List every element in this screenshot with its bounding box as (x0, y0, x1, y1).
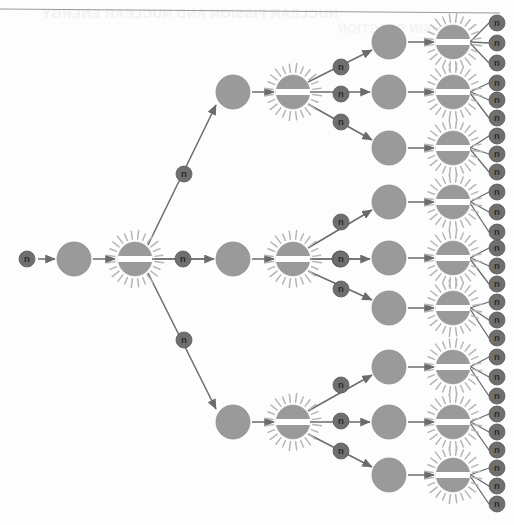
chain-reaction-diagram: nnnnnnnnnnnnnnnnnnnnnnnnnnnnnnnnnnnnnnnn… (0, 0, 514, 525)
nucleus-node (372, 75, 406, 109)
neutron-node: n (333, 214, 349, 230)
nucleus-node (372, 131, 406, 165)
neutron-label: n (181, 334, 187, 345)
nucleus-node (216, 75, 250, 109)
neutron-node: n (489, 184, 505, 200)
neutron-label: n (180, 253, 186, 264)
connector-line (471, 42, 489, 43)
neutron-node: n (175, 251, 191, 267)
neutron-node: n (489, 388, 505, 404)
neutron-node: n (489, 349, 505, 365)
neutron-node: n (19, 251, 35, 267)
neutron-node: n (489, 442, 505, 458)
neutron-node: n (333, 59, 349, 75)
neutron-label: n (338, 415, 344, 426)
neutron-node: n (489, 92, 505, 108)
neutron-node: n (489, 276, 505, 292)
neutron-node: n (489, 75, 505, 91)
neutron-node: n (333, 251, 349, 267)
neutron-label: n (338, 379, 344, 390)
neutron-label: n (494, 94, 500, 105)
neutron-label: n (494, 17, 500, 28)
neutron-label: n (494, 77, 500, 88)
neutron-node: n (333, 281, 349, 297)
nucleus-node (372, 405, 406, 439)
neutron-node: n (333, 377, 349, 393)
neutron-node: n (489, 294, 505, 310)
neutron-label: n (494, 278, 500, 289)
neutron-label: n (338, 445, 344, 456)
neutron-node: n (333, 114, 349, 130)
neutron-label: n (494, 390, 500, 401)
neutron-node: n (489, 35, 505, 51)
figure-canvas: NUCLEAR FISSION AND NUCLEAR ENERGY CHAIN… (0, 0, 514, 525)
neutron-node: n (489, 496, 505, 512)
neutron-node: n (489, 164, 505, 180)
neutron-label: n (181, 168, 187, 179)
neutron-node: n (489, 224, 505, 240)
top-rule-group (0, 9, 500, 13)
neutron-label: n (338, 216, 344, 227)
neutron-label: n (494, 57, 500, 68)
connector-line (470, 136, 489, 148)
top-horizontal-rule (0, 9, 500, 13)
nucleus-node (372, 458, 406, 492)
neutron-label: n (24, 253, 30, 264)
neutron-node: n (489, 128, 505, 144)
neutron-node: n (489, 258, 505, 274)
neutron-label: n (494, 426, 500, 437)
neutron-node: n (489, 424, 505, 440)
neutron-node: n (489, 15, 505, 31)
nucleus-node (216, 405, 250, 439)
nucleus-node (216, 242, 250, 276)
neutron-label: n (338, 283, 344, 294)
neutron-node: n (489, 330, 505, 346)
neutron-label: n (494, 480, 500, 491)
connector-line (470, 93, 489, 118)
neutron-label: n (494, 371, 500, 382)
neutron-label: n (494, 112, 500, 123)
neutron-label: n (494, 206, 500, 217)
neutron-node: n (489, 478, 505, 494)
neutron-label: n (338, 116, 344, 127)
neutron-node: n (489, 312, 505, 328)
neutron-label: n (338, 61, 344, 72)
neutron-node: n (333, 86, 349, 102)
neutron-node: n (489, 369, 505, 385)
neutron-label: n (494, 130, 500, 141)
neutron-label: n (494, 351, 500, 362)
nucleus-node (372, 291, 406, 325)
neutron-label: n (494, 296, 500, 307)
neutron-label: n (494, 242, 500, 253)
nucleus-node (372, 241, 406, 275)
neutron-label: n (494, 148, 500, 159)
neutron-label: n (494, 408, 500, 419)
neutron-label: n (494, 186, 500, 197)
neutron-node: n (489, 110, 505, 126)
connector-line (470, 259, 489, 284)
neutron-node: n (489, 204, 505, 220)
neutron-node: n (333, 443, 349, 459)
nucleus-node (372, 350, 406, 384)
neutron-label: n (494, 462, 500, 473)
neutron-label: n (494, 498, 500, 509)
neutron-label: n (338, 88, 344, 99)
neutron-label: n (494, 332, 500, 343)
nucleus-node (57, 242, 91, 276)
neutron-node: n (489, 55, 505, 71)
neutron-label: n (494, 37, 500, 48)
neutron-node: n (176, 332, 192, 348)
neutron-label: n (494, 444, 500, 455)
nucleus-node (372, 185, 406, 219)
neutron-node: n (489, 240, 505, 256)
neutron-node: n (489, 146, 505, 162)
neutron-node: n (333, 413, 349, 429)
nucleus-node (372, 25, 406, 59)
neutron-node: n (489, 460, 505, 476)
neutron-label: n (494, 226, 500, 237)
neutron-node: n (176, 166, 192, 182)
neutron-node: n (489, 406, 505, 422)
neutron-label: n (494, 260, 500, 271)
neutron-label: n (494, 166, 500, 177)
neutron-label: n (494, 314, 500, 325)
